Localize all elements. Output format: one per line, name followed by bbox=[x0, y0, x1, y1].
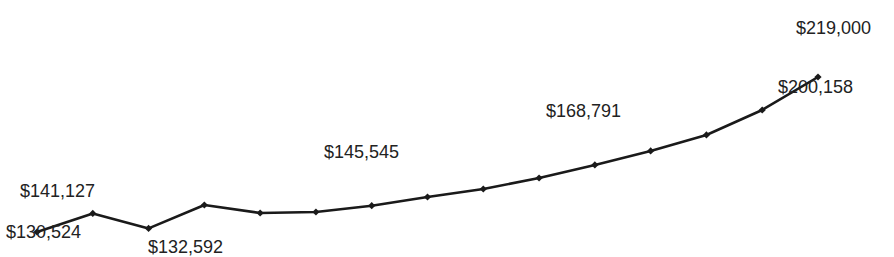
data-label-132592: $132,592 bbox=[148, 238, 223, 256]
data-point-marker bbox=[201, 201, 208, 208]
data-label-200158: $200,158 bbox=[778, 78, 853, 96]
data-point-marker bbox=[480, 185, 487, 192]
data-point-marker bbox=[368, 202, 375, 209]
data-point-marker bbox=[591, 161, 598, 168]
data-label-168791: $168,791 bbox=[546, 102, 621, 120]
data-label-219000: $219,000 bbox=[796, 19, 871, 37]
data-label-141127: $141,127 bbox=[20, 182, 95, 200]
data-point-marker bbox=[89, 210, 96, 217]
data-point-marker bbox=[535, 174, 542, 181]
data-point-marker bbox=[647, 147, 654, 154]
data-point-marker bbox=[257, 209, 264, 216]
data-point-marker bbox=[145, 225, 152, 232]
data-label-130524: $130,524 bbox=[6, 223, 81, 241]
data-point-marker bbox=[424, 193, 431, 200]
data-label-145545: $145,545 bbox=[324, 143, 399, 161]
data-point-marker bbox=[312, 208, 319, 215]
series-line bbox=[37, 77, 818, 232]
data-point-markers bbox=[33, 73, 821, 235]
